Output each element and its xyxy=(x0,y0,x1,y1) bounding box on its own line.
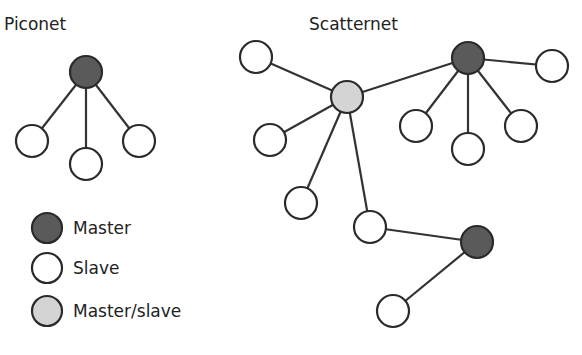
scatternet-master-node xyxy=(461,226,493,258)
scatternet-slave-node xyxy=(505,110,537,142)
piconet-master-node xyxy=(70,56,102,88)
scatternet-slave-node xyxy=(254,124,286,156)
scatternet-slave-node xyxy=(285,187,317,219)
scatternet-slave-node xyxy=(240,41,272,73)
scatternet-slave-node xyxy=(452,133,484,165)
piconet-title: Piconet xyxy=(4,14,67,34)
scatternet-title: Scatternet xyxy=(309,14,398,34)
legend-master-slave-label: Master/slave xyxy=(73,301,181,321)
legend-master-label: Master xyxy=(73,218,131,238)
legend-master-slave-icon xyxy=(32,296,62,326)
scatternet-slave-node xyxy=(536,50,568,82)
legend-master-icon xyxy=(32,213,62,243)
link-edge xyxy=(347,97,370,227)
scatternet-master-node xyxy=(452,42,484,74)
scatternet-master-slave-node xyxy=(331,81,363,113)
nodes-layer xyxy=(16,41,568,327)
legend-slave-icon xyxy=(32,253,62,283)
scatternet-slave-node xyxy=(400,110,432,142)
link-edge xyxy=(301,97,347,203)
link-edge xyxy=(347,58,468,97)
scatternet-slave-node xyxy=(377,295,409,327)
network-diagram: Piconet Scatternet Master Slave Master/s… xyxy=(0,0,582,355)
piconet-slave-node xyxy=(123,125,155,157)
scatternet-slave-node xyxy=(354,211,386,243)
legend-slave-label: Slave xyxy=(73,258,119,278)
legend: Master Slave Master/slave xyxy=(32,213,181,326)
piconet-slave-node xyxy=(70,148,102,180)
piconet-slave-node xyxy=(16,125,48,157)
